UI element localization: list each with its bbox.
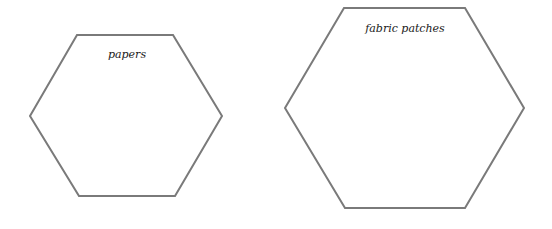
- diagram-canvas: [0, 0, 552, 229]
- label-fabric-patches: fabric patches: [365, 22, 445, 35]
- hexagon-fabric-patches: [285, 8, 524, 208]
- label-papers: papers: [108, 48, 146, 61]
